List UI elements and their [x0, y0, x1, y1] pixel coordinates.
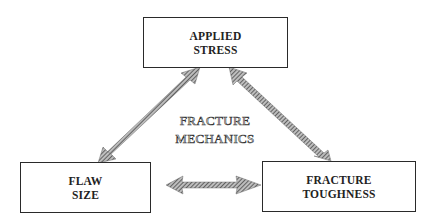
node-applied-stress: APPLIED STRESS [143, 17, 288, 68]
center-label-line2: MECHANICS [160, 130, 270, 148]
node-label-line2: SIZE [72, 188, 99, 202]
arrow-flaw-to-toughness [166, 176, 261, 194]
center-label-line1: FRACTURE [160, 112, 270, 130]
node-label-line1: FRACTURE [306, 173, 372, 187]
node-flaw-size: FLAW SIZE [20, 162, 151, 213]
center-label: FRACTURE MECHANICS [160, 112, 270, 148]
node-label-line1: APPLIED [190, 29, 242, 43]
node-label-line1: FLAW [68, 174, 102, 188]
node-label-line2: TOUGHNESS [302, 187, 375, 201]
node-fracture-toughness: FRACTURE TOUGHNESS [262, 161, 416, 212]
node-label-line2: STRESS [193, 43, 237, 57]
